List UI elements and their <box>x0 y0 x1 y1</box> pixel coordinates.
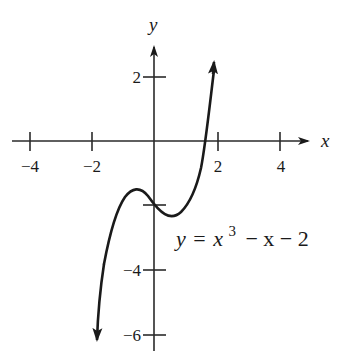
x-tick-label-4: 4 <box>277 157 286 176</box>
y-tick-label-2: 2 <box>133 68 142 87</box>
y-tick-label-neg4: −4 <box>123 261 142 280</box>
equation-label: y = x 3 − x − 2 <box>174 216 309 251</box>
curve-lower-tail <box>97 264 104 340</box>
x-tick-label-neg2: −2 <box>83 157 101 176</box>
x-tick-label-neg4: −4 <box>21 157 40 176</box>
curve-upper-arrow <box>213 62 214 74</box>
y-axis-label: y <box>147 14 158 35</box>
y-tick-label-neg6: −6 <box>123 326 141 345</box>
cubic-function-graph: −4 −2 2 4 2 −4 −6 x y y = x 3 − x − 2 <box>0 0 341 351</box>
svg-text:y = x 3: y = x 3 − x − 2 <box>174 216 309 251</box>
x-tick-label-2: 2 <box>214 157 223 176</box>
x-axis-label: x <box>320 130 330 151</box>
